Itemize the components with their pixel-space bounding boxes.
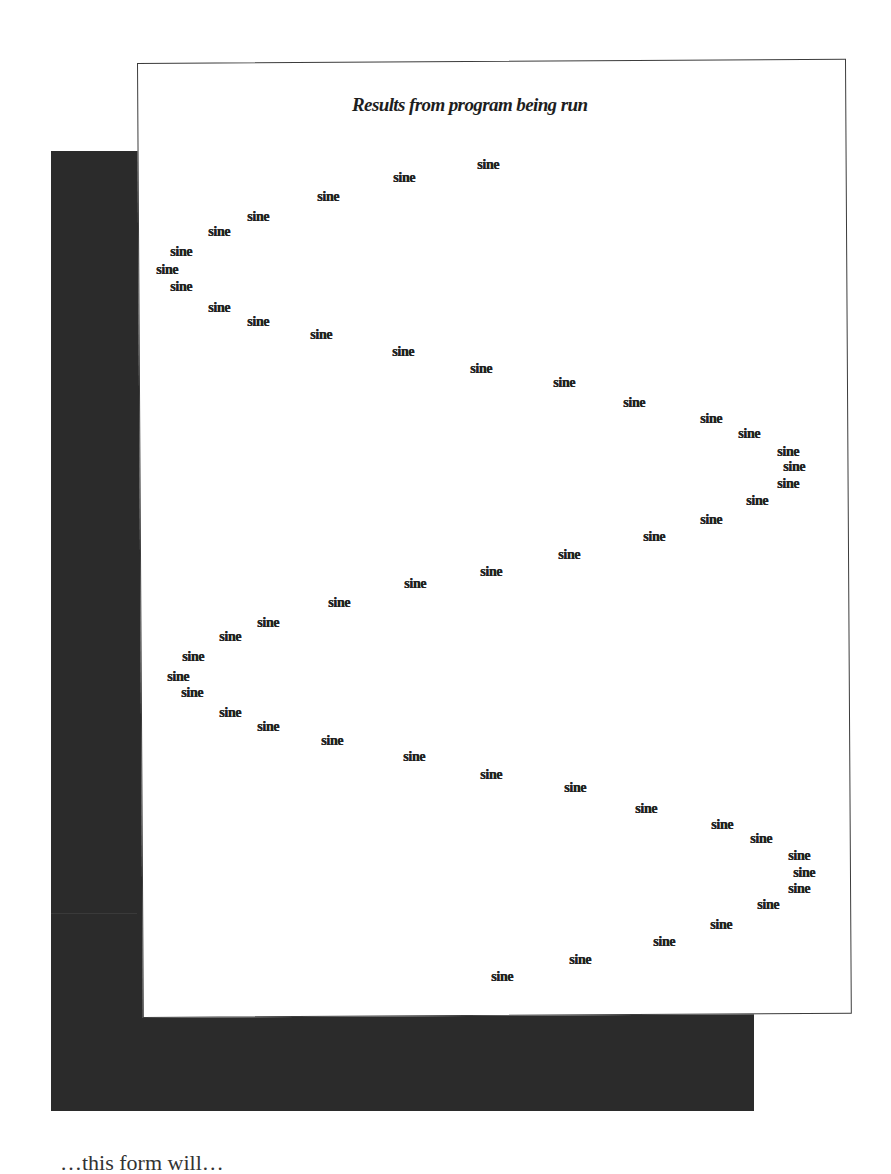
- sine-point: sine: [257, 616, 279, 630]
- sine-point: sine: [491, 970, 513, 984]
- sine-point: sine: [569, 953, 591, 967]
- sine-point: sine: [182, 650, 204, 664]
- sine-point: sine: [480, 565, 502, 579]
- sine-point: sine: [403, 750, 425, 764]
- sine-point: sine: [793, 866, 815, 880]
- sine-point: sine: [470, 362, 492, 376]
- sine-point: sine: [480, 768, 502, 782]
- sine-point: sine: [156, 263, 178, 277]
- sine-point: sine: [219, 630, 241, 644]
- chart-panel: [137, 59, 852, 1018]
- sine-point: sine: [783, 460, 805, 474]
- sine-point: sine: [700, 412, 722, 426]
- sine-point: sine: [788, 882, 810, 896]
- sine-point: sine: [392, 345, 414, 359]
- sine-point: sine: [170, 280, 192, 294]
- sine-point: sine: [757, 898, 779, 912]
- sine-point: sine: [750, 832, 772, 846]
- sine-point: sine: [635, 802, 657, 816]
- sine-point: sine: [477, 158, 499, 172]
- sine-point: sine: [738, 427, 760, 441]
- sine-point: sine: [310, 328, 332, 342]
- sine-point: sine: [328, 596, 350, 610]
- sine-point: sine: [208, 225, 230, 239]
- sine-point: sine: [247, 210, 269, 224]
- sine-point: sine: [558, 548, 580, 562]
- shadow-seam: [51, 913, 137, 914]
- sine-point: sine: [746, 494, 768, 508]
- sine-point: sine: [321, 734, 343, 748]
- sine-point: sine: [777, 477, 799, 491]
- sine-point: sine: [247, 315, 269, 329]
- sine-point: sine: [219, 706, 241, 720]
- cropped-caption-text: …this form will…: [60, 1150, 224, 1174]
- sine-point: sine: [317, 190, 339, 204]
- sine-point: sine: [564, 781, 586, 795]
- sine-point: sine: [700, 513, 722, 527]
- sine-point: sine: [711, 818, 733, 832]
- sine-point: sine: [653, 935, 675, 949]
- sine-point: sine: [181, 686, 203, 700]
- sine-point: sine: [553, 376, 575, 390]
- sine-point: sine: [788, 849, 810, 863]
- sine-point: sine: [404, 577, 426, 591]
- sine-point: sine: [777, 445, 799, 459]
- sine-point: sine: [170, 245, 192, 259]
- sine-point: sine: [643, 530, 665, 544]
- sine-point: sine: [167, 670, 189, 684]
- sine-point: sine: [710, 918, 732, 932]
- sine-point: sine: [623, 396, 645, 410]
- sine-point: sine: [393, 171, 415, 185]
- sine-point: sine: [208, 301, 230, 315]
- chart-title: Results from program being run: [352, 94, 587, 116]
- sine-point: sine: [257, 720, 279, 734]
